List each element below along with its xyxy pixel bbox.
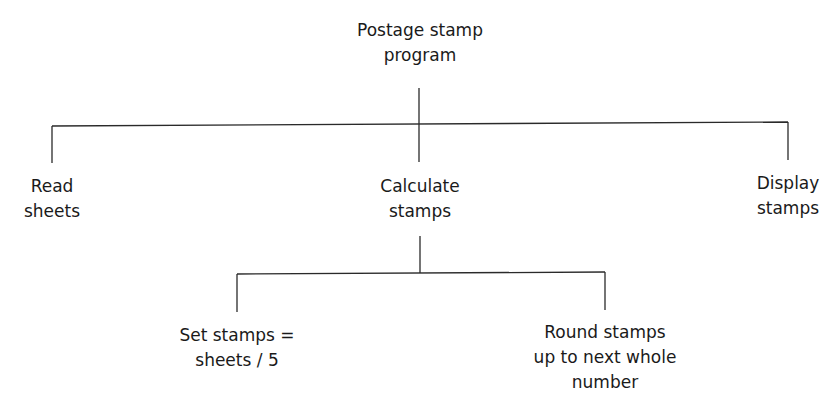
node-read-sheets: Read sheets — [24, 174, 80, 224]
node-postage-stamp-program: Postage stamp program — [357, 18, 483, 68]
node-round-stamps: Round stamps up to next whole number — [534, 320, 677, 395]
node-label: Set stamps = — [179, 323, 294, 348]
node-label: stamps — [757, 196, 820, 221]
node-label: sheets — [24, 199, 80, 224]
node-label: Read — [24, 174, 80, 199]
node-calculate-stamps: Calculate stamps — [380, 174, 459, 224]
node-label: stamps — [380, 199, 459, 224]
node-label: number — [534, 370, 677, 395]
node-label: Display — [757, 171, 820, 196]
node-label: Postage stamp — [357, 18, 483, 43]
level1-bus — [52, 122, 788, 126]
node-label: program — [357, 43, 483, 68]
node-set-stamps: Set stamps = sheets / 5 — [179, 323, 294, 373]
level2-bus — [237, 272, 605, 274]
node-display-stamps: Display stamps — [757, 171, 820, 221]
node-label: up to next whole — [534, 345, 677, 370]
node-label: sheets / 5 — [179, 348, 294, 373]
node-label: Calculate — [380, 174, 459, 199]
node-label: Round stamps — [534, 320, 677, 345]
